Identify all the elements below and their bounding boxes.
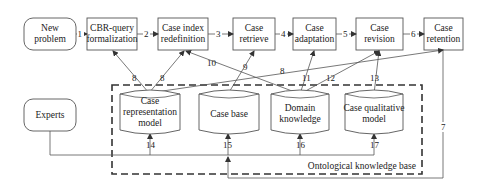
node-experts: Experts — [24, 99, 76, 131]
svg-text:12: 12 — [326, 73, 335, 83]
svg-text:6: 6 — [411, 29, 416, 39]
edge-8-retention — [149, 50, 443, 93]
svg-text:revision: revision — [364, 34, 395, 44]
store-case-base: Case base — [199, 90, 259, 134]
cbr-process-diagram: New problem CBR-query formalization Case… — [0, 0, 486, 186]
svg-text:5: 5 — [343, 29, 348, 39]
svg-text:Case: Case — [434, 23, 452, 33]
store-domain-knowledge: Domain knowledge — [271, 90, 329, 134]
svg-text:13: 13 — [370, 73, 380, 83]
svg-text:3: 3 — [216, 29, 221, 39]
svg-text:7: 7 — [441, 122, 446, 132]
svg-text:17: 17 — [370, 140, 380, 150]
svg-text:4: 4 — [281, 29, 286, 39]
svg-text:retrieve: retrieve — [239, 34, 268, 44]
svg-text:CBR-query: CBR-query — [90, 23, 134, 33]
svg-text:Case base: Case base — [210, 109, 248, 119]
svg-text:8: 8 — [160, 73, 165, 83]
svg-text:10: 10 — [207, 58, 217, 68]
svg-text:8: 8 — [132, 73, 137, 83]
edge-9 — [228, 51, 254, 94]
node-case-revision: Case revision — [356, 18, 403, 50]
svg-text:16: 16 — [296, 140, 306, 150]
svg-text:New: New — [41, 23, 59, 33]
svg-text:9: 9 — [243, 62, 248, 72]
svg-text:Domain: Domain — [285, 103, 316, 113]
store-case-representation-model: Case representation model — [120, 90, 180, 134]
node-case-retrieve: Case retrieve — [233, 18, 275, 50]
node-case-retention: Case retention — [424, 18, 463, 50]
svg-text:problem: problem — [34, 34, 66, 44]
store-case-qualitative-model: Case qualitative model — [344, 90, 405, 134]
svg-text:2: 2 — [144, 29, 149, 39]
svg-text:redefinition: redefinition — [161, 34, 206, 44]
svg-text:Case: Case — [305, 23, 323, 33]
svg-text:Case: Case — [141, 96, 159, 106]
node-new-problem: New problem — [24, 18, 76, 50]
svg-text:Case: Case — [245, 23, 263, 33]
svg-text:Case: Case — [370, 23, 388, 33]
edge-7 — [228, 50, 443, 178]
node-cbr-query-formalization: CBR-query formalization — [86, 18, 137, 50]
experts-bus — [50, 131, 374, 155]
svg-text:formalization: formalization — [86, 34, 137, 44]
svg-text:1: 1 — [78, 29, 83, 39]
svg-text:retention: retention — [427, 34, 461, 44]
svg-text:model: model — [362, 114, 386, 124]
svg-text:8: 8 — [280, 66, 285, 76]
edge-8-case-index — [149, 51, 184, 93]
svg-text:Case index: Case index — [162, 23, 204, 33]
svg-text:11: 11 — [302, 73, 311, 83]
svg-text:Experts: Experts — [35, 110, 64, 120]
svg-text:knowledge: knowledge — [279, 114, 321, 124]
node-case-index-redefinition: Case index redefinition — [158, 18, 208, 50]
edge-8-cbr-query — [113, 51, 149, 93]
svg-text:14: 14 — [146, 140, 156, 150]
svg-text:adaptation: adaptation — [295, 34, 335, 44]
ontological-kb-title: Ontological knowledge base — [308, 161, 416, 171]
svg-text:model: model — [138, 118, 162, 128]
svg-text:Case qualitative: Case qualitative — [344, 103, 405, 113]
svg-text:15: 15 — [223, 140, 233, 150]
node-case-adaptation: Case adaptation — [293, 18, 336, 50]
svg-text:representation: representation — [123, 107, 177, 117]
